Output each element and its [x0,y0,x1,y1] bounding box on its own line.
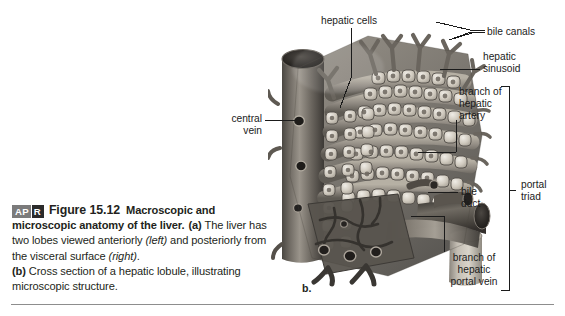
label-bile-canals: bile canals [487,26,535,38]
lobule-drawing [268,8,493,290]
label-branch-hepatic-artery-line3: artery [459,110,485,122]
panel-letter-b: b. [302,283,311,295]
label-hepatic-cells: hepatic cells [321,15,377,27]
hepatic-lobule-illustration [268,8,493,290]
figure-number: Figure 15.12 [49,203,120,217]
label-portal-triad-line1: portal [521,179,546,191]
label-bile-duct-line2: duct [461,198,480,210]
figure-page: hepatic cells bile canals hepatic sinuso… [0,0,565,316]
bottom-divider [11,304,554,305]
label-branch-hepatic-artery-line2: hepatic [459,98,492,110]
label-portal-triad-line2: triad [521,191,541,203]
part-a-text-3: . [137,250,140,262]
label-central-vein-line2: vein [192,125,262,137]
label-branch-hepatic-portal-vein-line3: portal vein [440,276,508,288]
label-hepatic-sinusoid-line1: hepatic [483,51,516,63]
figure-caption: APRFigure 15.12Macroscopic and microscop… [12,203,280,294]
apr-badge: APR [12,205,44,218]
part-b-text: Cross section of a hepatic lobule, illus… [12,265,241,292]
apr-badge-r: R [32,205,44,218]
label-branch-hepatic-artery-line1: branch of [459,86,501,98]
part-b-marker: (b) [12,265,26,277]
label-branch-hepatic-portal-vein-line2: hepatic [440,264,508,276]
part-a-marker: (a) [188,219,201,231]
label-central-vein-line1: central [192,113,262,125]
label-bile-duct-line1: bile [461,186,477,198]
part-a-italic-right: (right) [109,250,137,262]
part-a-italic-left: (left) [145,234,167,246]
label-hepatic-sinusoid-line2: sinusoid [483,63,520,75]
apr-badge-ap: AP [12,205,31,218]
label-branch-hepatic-portal-vein-line1: branch of [440,252,508,264]
